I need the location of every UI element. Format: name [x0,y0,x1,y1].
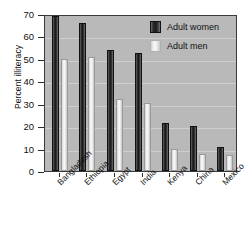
legend: Adult women Adult men [150,20,234,58]
y-axis-tick-label: 20 [0,121,34,132]
y-axis-tick-label: 0 [0,166,34,177]
legend-label-adult-men: Adult men [167,41,208,51]
bar-kenya-adult-women [162,123,169,171]
bar-india-adult-men [144,103,151,171]
legend-label-adult-women: Adult women [167,22,219,32]
bar-mexico-adult-women [217,147,224,171]
legend-item-adult-men: Adult men [150,39,234,53]
y-axis-tick-label: 50 [0,54,34,65]
bar-china-adult-women [190,126,197,171]
bar-bangladesh-adult-women [52,16,59,171]
y-axis-tick-label: 40 [0,76,34,87]
y-axis-tick [38,172,44,173]
y-axis-tick-label: 10 [0,144,34,155]
y-axis-tick-label: 60 [0,31,34,42]
bar-egypt-adult-women [107,50,114,171]
bar-chart: Percent illiteracy 010203040506070 Bangl… [0,0,249,227]
y-axis-tick-label: 30 [0,99,34,110]
y-axis-tick-label: 70 [0,9,34,20]
bar-india-adult-women [135,53,142,171]
legend-swatch-adult-men [150,40,161,52]
legend-swatch-adult-women [150,21,161,33]
bar-egypt-adult-men [116,99,123,171]
bar-bangladesh-adult-men [61,59,68,171]
legend-item-adult-women: Adult women [150,20,234,34]
